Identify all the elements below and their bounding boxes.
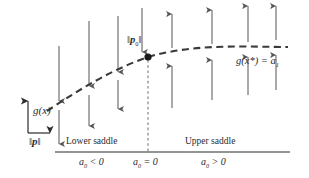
curve-equation-subscript: 1 <box>276 61 279 68</box>
condition-rel: = 0 <box>141 156 158 167</box>
point-norm-close: ‖ <box>138 34 141 45</box>
bifurcation-point-marker <box>144 53 151 60</box>
y-axis-label: g(x) <box>33 104 51 116</box>
x-axis-label-norm-close: ‖ <box>38 135 41 147</box>
x-axis-label: ‖p‖ <box>29 135 41 147</box>
condition-rel: > 0 <box>209 156 226 167</box>
curve-equation-equals: = <box>258 55 270 66</box>
flow-arrows-down <box>59 8 142 144</box>
condition-lower-saddle: a0 < 0 <box>79 156 104 169</box>
region-label-upper-saddle: Upper saddle <box>185 136 235 146</box>
condition-rel: < 0 <box>87 156 104 167</box>
saddle-bifurcation-figure <box>0 0 309 178</box>
region-label-lower-saddle: Lower saddle <box>66 136 117 146</box>
condition-critical: a0 = 0 <box>133 156 158 169</box>
bifurcation-point-label: ‖p0‖ <box>127 34 141 47</box>
curve-equation-label: g(x*) = a1 <box>236 55 279 68</box>
condition-upper-saddle: a0 > 0 <box>201 156 226 169</box>
curve-equation-func: g(x*) <box>236 55 258 66</box>
